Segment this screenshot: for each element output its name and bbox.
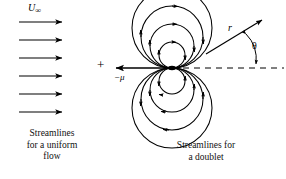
radius-label: r <box>228 22 232 33</box>
plus-sign-label: + <box>97 57 104 73</box>
uniform-flow-arrows <box>19 22 62 112</box>
uniform-flow-caption: Streamlines for a uniform flow <box>4 128 100 163</box>
flow-direction-arrow <box>159 95 163 96</box>
streamline-loop <box>132 68 212 148</box>
streamline-loop <box>159 42 185 68</box>
streamline-loop <box>150 68 194 112</box>
streamline-loop <box>141 6 203 68</box>
doublet-streamlines <box>132 0 212 148</box>
streamline-loop <box>150 24 194 68</box>
caption-line: Streamlines for <box>150 140 262 152</box>
caption-line: for a uniform <box>4 140 100 152</box>
doublet-loops-below <box>132 68 212 148</box>
doublet-caption: Streamlines for a doublet <box>150 140 262 163</box>
streamline-loop <box>159 68 185 94</box>
velocity-subscript: ∞ <box>35 6 41 15</box>
doublet-strength-label: −μ <box>114 72 125 82</box>
streamline-loop <box>132 0 212 68</box>
caption-line: a doublet <box>150 152 262 164</box>
flow-direction-arrow <box>161 112 166 113</box>
freestream-velocity-label: U∞ <box>28 2 41 15</box>
caption-line: Streamlines <box>4 128 100 140</box>
caption-line: flow <box>4 151 100 163</box>
streamline-loop <box>141 68 203 130</box>
angle-label: θ <box>252 40 257 51</box>
doublet-loops-above <box>132 0 212 68</box>
